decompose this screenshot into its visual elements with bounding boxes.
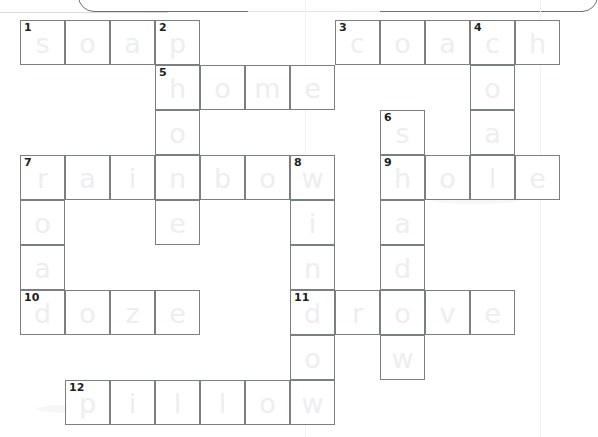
crossword-cell[interactable]: 7r [20, 155, 65, 200]
cell-letter: o [426, 164, 469, 191]
crossword-cell[interactable]: a [110, 20, 155, 65]
crossword-cell[interactable]: w [380, 335, 425, 380]
cell-letter: a [66, 164, 109, 191]
cell-letter: w [381, 344, 424, 371]
crossword-cell[interactable]: e [155, 290, 200, 335]
crossword-cell[interactable]: o [380, 20, 425, 65]
crossword-cell[interactable]: w [290, 380, 335, 425]
crossword-cell[interactable]: v [425, 290, 470, 335]
cell-letter: s [381, 119, 424, 146]
crossword-cell[interactable]: 8w [290, 155, 335, 200]
crossword-cell[interactable]: l [200, 380, 245, 425]
cell-letter: n [156, 164, 199, 191]
cell-letter: r [21, 164, 64, 191]
cell-letter: e [156, 299, 199, 326]
cell-letter: o [66, 29, 109, 56]
crossword-cell[interactable]: l [155, 380, 200, 425]
crossword-cell[interactable]: o [65, 290, 110, 335]
cell-letter: d [381, 254, 424, 281]
cell-letter: h [156, 74, 199, 101]
crossword-cell[interactable]: 4c [470, 20, 515, 65]
cell-letter: a [111, 29, 154, 56]
cell-letter: c [471, 29, 514, 56]
crossword-cell[interactable]: o [200, 65, 245, 110]
cell-letter: o [66, 299, 109, 326]
crossword-cell[interactable]: o [380, 290, 425, 335]
crossword-cell[interactable]: o [290, 335, 335, 380]
crossword-cell[interactable]: z [110, 290, 155, 335]
cell-letter: p [66, 389, 109, 416]
crossword-cell[interactable]: o [245, 155, 290, 200]
cell-letter: p [156, 29, 199, 56]
cell-letter: a [381, 209, 424, 236]
cell-letter: z [111, 299, 154, 326]
crossword-cell[interactable]: 10d [20, 290, 65, 335]
cell-letter: s [21, 29, 64, 56]
cell-letter: d [291, 299, 334, 326]
crossword-cell[interactable]: e [155, 200, 200, 245]
cell-letter: c [336, 29, 379, 56]
cell-letter: h [516, 29, 559, 56]
crossword-cell[interactable]: o [20, 200, 65, 245]
crossword-cell[interactable]: o [245, 380, 290, 425]
cell-letter: i [291, 209, 334, 236]
cell-letter: a [21, 254, 64, 281]
cell-letter: a [426, 29, 469, 56]
crossword-cell[interactable]: b [200, 155, 245, 200]
crossword-cell[interactable]: o [155, 110, 200, 155]
cell-letter: o [291, 344, 334, 371]
cell-letter: h [381, 164, 424, 191]
cell-letter: o [471, 74, 514, 101]
crossword-cell[interactable]: a [380, 200, 425, 245]
cell-letter: i [111, 164, 154, 191]
cell-letter: l [156, 389, 199, 416]
cell-letter: a [471, 119, 514, 146]
cell-letter: d [21, 299, 64, 326]
cell-letter: w [291, 164, 334, 191]
crossword-cell[interactable]: h [515, 20, 560, 65]
cell-letter: o [21, 209, 64, 236]
crossword-cell[interactable]: a [20, 245, 65, 290]
cell-letter: e [516, 164, 559, 191]
cell-letter: m [246, 74, 289, 101]
crossword-cell[interactable]: a [470, 110, 515, 155]
cell-letter: l [471, 164, 514, 191]
crossword-cell[interactable]: i [110, 380, 155, 425]
crossword-cell[interactable]: a [425, 20, 470, 65]
cell-letter: w [291, 389, 334, 416]
crossword-cell[interactable]: 6s [380, 110, 425, 155]
crossword-cell[interactable]: 12p [65, 380, 110, 425]
cell-letter: v [426, 299, 469, 326]
crossword-cell[interactable]: o [425, 155, 470, 200]
crossword-cell[interactable]: r [335, 290, 380, 335]
cell-letter: o [246, 164, 289, 191]
crossword-cell[interactable]: m [245, 65, 290, 110]
cell-letter: o [381, 299, 424, 326]
crossword-cell[interactable]: e [470, 290, 515, 335]
cell-letter: o [156, 119, 199, 146]
cell-letter: l [201, 389, 244, 416]
crossword-cell[interactable]: 11d [290, 290, 335, 335]
crossword-cell[interactable]: d [380, 245, 425, 290]
crossword-cell[interactable]: 2p [155, 20, 200, 65]
crossword-cell[interactable]: 1s [20, 20, 65, 65]
crossword-cell[interactable]: n [290, 245, 335, 290]
crossword-cell[interactable]: 3c [335, 20, 380, 65]
crossword-cell[interactable]: l [470, 155, 515, 200]
crossword-cell[interactable]: n [155, 155, 200, 200]
crossword-cell[interactable]: e [290, 65, 335, 110]
cell-letter: o [381, 29, 424, 56]
crossword-cell[interactable]: a [65, 155, 110, 200]
crossword-cell[interactable]: i [290, 200, 335, 245]
crossword-cell[interactable]: i [110, 155, 155, 200]
crossword-cell[interactable]: o [65, 20, 110, 65]
cell-letter: n [291, 254, 334, 281]
crossword-cell[interactable]: o [470, 65, 515, 110]
cell-letter: e [156, 209, 199, 236]
crossword-cell[interactable]: 9h [380, 155, 425, 200]
crossword-cell[interactable]: e [515, 155, 560, 200]
crossword-cell[interactable]: 5h [155, 65, 200, 110]
cell-letter: o [201, 74, 244, 101]
cell-letter: o [246, 389, 289, 416]
